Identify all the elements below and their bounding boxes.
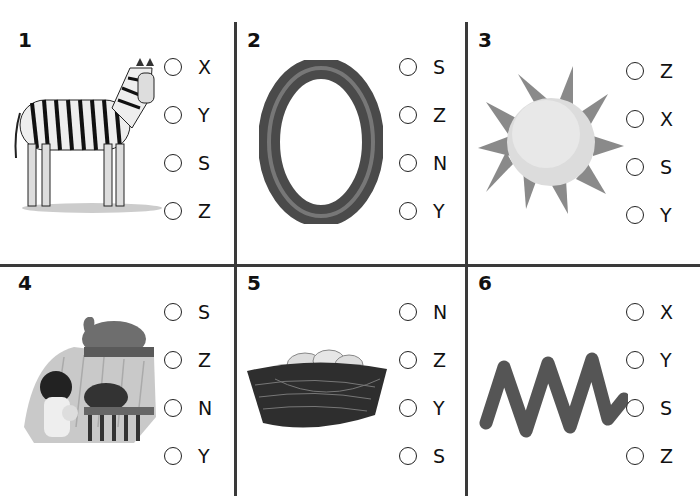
radio-circle[interactable] [626,399,644,417]
option-y[interactable]: Y [399,397,445,419]
radio-circle[interactable] [399,58,417,76]
option-z[interactable]: Z [164,349,211,371]
question-number: 2 [247,28,261,52]
zigzag-image [478,347,628,441]
radio-circle[interactable] [164,399,182,417]
option-x[interactable]: X [164,56,211,78]
sun-image [478,64,624,214]
question-number: 1 [18,28,32,52]
option-s[interactable]: S [626,397,672,419]
radio-circle[interactable] [399,154,417,172]
question-number: 3 [478,28,492,52]
radio-circle[interactable] [399,202,417,220]
zebra-image [12,58,162,218]
radio-circle[interactable] [626,158,644,176]
option-y[interactable]: Y [164,445,210,467]
question-cell-4: 4 S Z N Y [0,267,234,496]
option-z[interactable]: Z [399,349,446,371]
radio-circle[interactable] [164,202,182,220]
option-s[interactable]: S [164,152,210,174]
radio-circle[interactable] [399,447,417,465]
radio-circle[interactable] [626,351,644,369]
option-x[interactable]: X [626,108,673,130]
option-z[interactable]: Z [399,104,446,126]
radio-circle[interactable] [626,62,644,80]
radio-circle[interactable] [164,106,182,124]
option-z[interactable]: Z [164,200,211,222]
question-number: 4 [18,271,32,295]
radio-circle[interactable] [164,351,182,369]
radio-circle[interactable] [399,399,417,417]
option-s[interactable]: S [399,445,445,467]
option-z[interactable]: Z [626,445,673,467]
option-y[interactable]: Y [164,104,210,126]
radio-circle[interactable] [399,303,417,321]
zoo-image [14,317,156,449]
radio-circle[interactable] [626,110,644,128]
radio-circle[interactable] [164,58,182,76]
question-cell-3: 3 Z X S Y [468,0,700,264]
nest-image [245,335,389,435]
option-s[interactable]: S [399,56,445,78]
radio-circle[interactable] [399,351,417,369]
radio-circle[interactable] [164,154,182,172]
question-cell-1: 1 X Y S Z [0,0,234,264]
option-y[interactable]: Y [626,349,672,371]
radio-circle[interactable] [164,447,182,465]
option-z[interactable]: Z [626,60,673,82]
option-s[interactable]: S [164,301,210,323]
question-number: 6 [478,271,492,295]
question-cell-2: 2 S Z N Y [237,0,465,264]
option-s[interactable]: S [626,156,672,178]
question-number: 5 [247,271,261,295]
question-cell-6: 6 X Y S Z [468,267,700,496]
radio-circle[interactable] [399,106,417,124]
question-cell-5: 5 N Z Y S [237,267,465,496]
option-y[interactable]: Y [626,204,672,226]
option-x[interactable]: X [626,301,673,323]
option-n[interactable]: N [399,152,447,174]
radio-circle[interactable] [626,206,644,224]
option-n[interactable]: N [399,301,447,323]
radio-circle[interactable] [626,303,644,321]
letter-o-image [259,60,383,224]
radio-circle[interactable] [164,303,182,321]
option-y[interactable]: Y [399,200,445,222]
radio-circle[interactable] [626,447,644,465]
option-n[interactable]: N [164,397,212,419]
